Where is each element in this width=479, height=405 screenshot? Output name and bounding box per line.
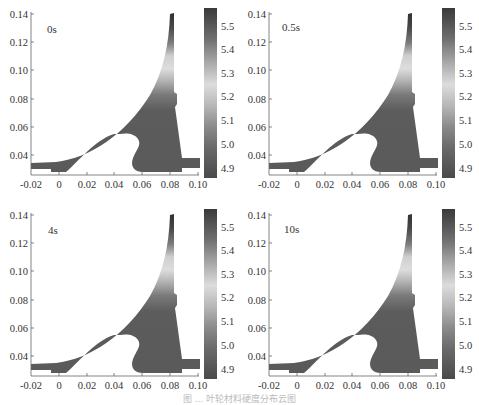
svg-text:-0.02: -0.02 — [258, 380, 280, 391]
y-tick-labels: 0.14 0.12 0.10 0.08 0.06 0.04 — [10, 9, 29, 161]
svg-text:-0.02: -0.02 — [20, 179, 42, 190]
svg-text:0.10: 0.10 — [248, 65, 266, 76]
panel-0s: 0s 0.14 0.12 0.10 0.08 0.06 0.04 -0.02 0… — [10, 8, 235, 190]
svg-text:0.10: 0.10 — [189, 380, 207, 391]
svg-text:0.02: 0.02 — [316, 380, 334, 391]
y-tick-labels: 0.14 0.12 0.10 0.08 0.06 0.04 — [10, 210, 29, 362]
svg-text:5.4: 5.4 — [459, 245, 473, 256]
svg-text:5.5: 5.5 — [221, 222, 234, 233]
svg-text:5.2: 5.2 — [459, 292, 472, 303]
svg-text:4.9: 4.9 — [221, 163, 234, 174]
svg-text:0.06: 0.06 — [371, 179, 389, 190]
y-tick-labels: 0.14 0.12 0.10 0.08 0.06 0.04 — [248, 210, 267, 362]
svg-text:0: 0 — [56, 179, 61, 190]
x-tick-labels: -0.02 0 0.02 0.04 0.06 0.08 0.10 — [20, 380, 207, 391]
svg-text:0.14: 0.14 — [10, 9, 29, 20]
svg-text:0.04: 0.04 — [343, 179, 362, 190]
svg-text:0.14: 0.14 — [10, 210, 29, 221]
svg-text:5.3: 5.3 — [459, 68, 472, 79]
x-tick-labels: -0.02 0 0.02 0.04 0.06 0.08 0.10 — [258, 179, 445, 190]
svg-text:0.10: 0.10 — [427, 380, 445, 391]
svg-text:-0.02: -0.02 — [258, 179, 280, 190]
svg-text:5.0: 5.0 — [459, 340, 472, 351]
svg-text:0.08: 0.08 — [399, 179, 417, 190]
svg-text:0.12: 0.12 — [10, 37, 28, 48]
svg-text:0.10: 0.10 — [10, 266, 28, 277]
panel-10s: 10s 0.14 0.12 0.10 0.08 0.06 0.04 -0.02 … — [248, 209, 473, 391]
svg-text:0.14: 0.14 — [248, 9, 267, 20]
svg-text:0.04: 0.04 — [105, 179, 124, 190]
colorbar-labels: 5.5 5.4 5.3 5.2 5.1 5.0 4.9 — [459, 222, 473, 375]
svg-text:0.06: 0.06 — [10, 323, 28, 334]
svg-text:0.06: 0.06 — [248, 122, 266, 133]
svg-text:5.3: 5.3 — [459, 269, 472, 280]
svg-text:0.04: 0.04 — [105, 380, 124, 391]
svg-text:5.3: 5.3 — [221, 269, 234, 280]
svg-text:5.1: 5.1 — [221, 316, 234, 327]
time-label: 4s — [48, 224, 58, 236]
svg-text:0.04: 0.04 — [248, 351, 267, 362]
time-label: 10s — [284, 223, 299, 235]
svg-text:5.1: 5.1 — [221, 115, 234, 126]
figure-caption: 图 ... 叶轮材料硬度分布云图 — [0, 392, 479, 405]
svg-text:0.10: 0.10 — [427, 179, 445, 190]
svg-text:0.06: 0.06 — [248, 323, 266, 334]
svg-text:5.5: 5.5 — [459, 21, 472, 32]
x-tick-labels: -0.02 0 0.02 0.04 0.06 0.08 0.10 — [258, 380, 445, 391]
svg-text:5.2: 5.2 — [459, 91, 472, 102]
svg-text:0.02: 0.02 — [78, 179, 96, 190]
svg-text:5.0: 5.0 — [221, 340, 234, 351]
svg-text:0.06: 0.06 — [133, 179, 151, 190]
svg-text:0.08: 0.08 — [161, 179, 179, 190]
svg-text:0.04: 0.04 — [248, 150, 267, 161]
svg-text:0.02: 0.02 — [316, 179, 334, 190]
svg-text:0.12: 0.12 — [248, 238, 266, 249]
svg-text:0.10: 0.10 — [189, 179, 207, 190]
svg-text:0.08: 0.08 — [399, 380, 417, 391]
svg-text:5.2: 5.2 — [221, 91, 234, 102]
svg-text:5.5: 5.5 — [221, 21, 234, 32]
svg-text:0.14: 0.14 — [248, 210, 267, 221]
svg-text:0.10: 0.10 — [248, 266, 266, 277]
svg-text:0.08: 0.08 — [10, 295, 28, 306]
svg-text:0.12: 0.12 — [248, 37, 266, 48]
svg-text:5.1: 5.1 — [459, 115, 472, 126]
svg-text:5.3: 5.3 — [221, 68, 234, 79]
colorbar-labels: 5.5 5.4 5.3 5.2 5.1 5.0 4.9 — [459, 21, 473, 174]
svg-text:5.0: 5.0 — [221, 139, 234, 150]
y-tick-labels: 0.14 0.12 0.10 0.08 0.06 0.04 — [248, 9, 267, 161]
svg-text:5.4: 5.4 — [221, 245, 235, 256]
svg-text:5.2: 5.2 — [221, 292, 234, 303]
svg-text:0.08: 0.08 — [161, 380, 179, 391]
svg-text:0.08: 0.08 — [10, 94, 28, 105]
colorbar-labels: 5.5 5.4 5.3 5.2 5.1 5.0 4.9 — [221, 21, 235, 174]
svg-text:-0.02: -0.02 — [20, 380, 42, 391]
svg-text:4.9: 4.9 — [459, 163, 472, 174]
svg-text:0.10: 0.10 — [10, 65, 28, 76]
svg-text:0.06: 0.06 — [133, 380, 151, 391]
panel-0.5s: 0.5s 0.14 0.12 0.10 0.08 0.06 0.04 -0.02… — [248, 8, 473, 190]
svg-text:0.04: 0.04 — [10, 351, 29, 362]
svg-text:5.0: 5.0 — [459, 139, 472, 150]
svg-text:0.06: 0.06 — [10, 122, 28, 133]
time-label: 0.5s — [282, 21, 300, 33]
svg-text:4.9: 4.9 — [221, 364, 234, 375]
svg-text:0.12: 0.12 — [10, 238, 28, 249]
x-tick-labels: -0.02 0 0.02 0.04 0.06 0.08 0.10 — [20, 179, 207, 190]
svg-text:0.02: 0.02 — [78, 380, 96, 391]
svg-text:0.08: 0.08 — [248, 94, 266, 105]
svg-text:5.1: 5.1 — [459, 316, 472, 327]
panel-4s: 4s 0.14 0.12 0.10 0.08 0.06 0.04 -0.02 0… — [10, 209, 235, 391]
svg-text:0.06: 0.06 — [371, 380, 389, 391]
time-label: 0s — [47, 23, 57, 35]
svg-text:0: 0 — [294, 179, 299, 190]
svg-text:0.04: 0.04 — [10, 150, 29, 161]
svg-text:0: 0 — [56, 380, 61, 391]
svg-text:4.9: 4.9 — [459, 364, 472, 375]
svg-text:0.08: 0.08 — [248, 295, 266, 306]
svg-text:5.5: 5.5 — [459, 222, 472, 233]
svg-text:5.4: 5.4 — [459, 44, 473, 55]
colorbar-labels: 5.5 5.4 5.3 5.2 5.1 5.0 4.9 — [221, 222, 235, 375]
svg-text:0: 0 — [294, 380, 299, 391]
